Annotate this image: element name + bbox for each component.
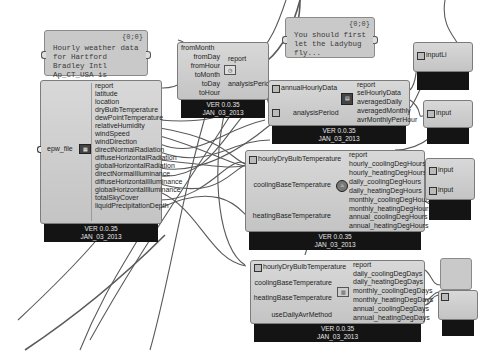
output-report: report xyxy=(228,55,246,62)
import-epw-component[interactable]: epw_file ▦ report latitude location dryB… xyxy=(40,80,162,242)
panel-text: You should first let the Ladybug fly... xyxy=(286,29,374,61)
output-analysis-period: analysisPeriod xyxy=(228,80,274,87)
input-label[interactable]: input xyxy=(438,166,453,173)
date-label: JAN_03_2013 xyxy=(272,135,406,143)
input-to-month[interactable]: toMonth xyxy=(195,71,220,78)
output-monthly-heating-days: monthly_heatingDegDays xyxy=(353,296,433,303)
version-label: VER 0.0.35 xyxy=(254,325,421,333)
component-version-footer xyxy=(442,320,474,336)
divider xyxy=(91,83,92,221)
ladybug-warning-panel[interactable]: {0;0} You should first let the Ladybug f… xyxy=(285,17,375,58)
output-report: report xyxy=(95,82,113,89)
component-version-footer xyxy=(417,72,469,90)
version-label: VER 0.0.35 xyxy=(44,225,158,233)
input-port[interactable] xyxy=(37,146,41,153)
panel-input-grip[interactable] xyxy=(282,36,287,44)
thermometer-icon: ♨ xyxy=(336,180,348,192)
output-liquid-precipitation: liquidPrecipitationDepth xyxy=(95,202,169,209)
degree-hours-component[interactable]: hourlyDryBulbTemperature coolingBaseTemp… xyxy=(245,150,425,250)
date-label: JAN_03_2013 xyxy=(181,109,265,117)
component-version-footer xyxy=(427,128,469,144)
output-report: report xyxy=(353,261,371,268)
epw-import-icon: ▦ xyxy=(79,144,91,154)
input-to-hour[interactable]: toHour xyxy=(199,89,220,96)
output-dew-point: dewPointTemperature xyxy=(95,114,163,121)
input-label[interactable]: inputLi xyxy=(426,51,447,58)
average-data-component[interactable]: annualHourlyData analysisPeriod ▤ report… xyxy=(268,80,410,144)
input-cooling-base-temp[interactable]: coolingBaseTemperature xyxy=(255,279,332,286)
input-label[interactable]: input xyxy=(436,109,451,116)
output-direct-normal-illuminance: directNormalIlluminance xyxy=(95,170,170,177)
input-heating-base-temp[interactable]: heatingBaseTemperature xyxy=(254,294,332,301)
input-label-epw-file: epw_file xyxy=(47,145,73,152)
output-hourly-heating: hourly_heatingDegHours xyxy=(349,169,426,176)
input-to-day[interactable]: toDay xyxy=(202,80,220,87)
clipped-input-component-3[interactable]: input input xyxy=(425,158,475,220)
output-averaged-daily: averagedDaily xyxy=(357,98,402,105)
output-monthly-heating: monthly_heatingDegHours xyxy=(349,205,432,212)
panel-input-grip[interactable] xyxy=(41,51,46,59)
output-total-sky-cover: totalSkyCover xyxy=(95,194,139,201)
output-relative-humidity: relativeHumidity xyxy=(95,122,145,129)
output-annual-cooling-days: annual_coolingDegDays xyxy=(353,305,429,312)
panel-output-grip[interactable] xyxy=(373,36,378,44)
input-analysis-period[interactable]: analysisPeriod xyxy=(293,109,339,116)
input-hourly-dry-bulb[interactable]: hourlyDryBulbTemperature xyxy=(263,263,346,270)
output-averaged-monthly: averagedMonthly xyxy=(357,107,411,114)
component-version-footer: VER 0.0.35 JAN_03_2013 xyxy=(272,126,406,144)
input-annual-hourly-data[interactable]: annualHourlyData xyxy=(281,84,337,91)
component-version-footer: VER 0.0.35 JAN_03_2013 xyxy=(254,324,421,342)
panel-output-grip[interactable] xyxy=(146,51,151,59)
list-param-icon xyxy=(429,187,437,195)
clipped-panel-right[interactable] xyxy=(440,258,472,290)
date-label: JAN_03_2013 xyxy=(44,233,158,241)
input-label[interactable]: input xyxy=(438,186,453,193)
date-label: JAN_03_2013 xyxy=(254,333,421,341)
output-report: report xyxy=(349,151,367,158)
list-param-icon xyxy=(272,109,280,117)
component-version-footer: VER 0.0.35 JAN_03_2013 xyxy=(181,100,265,118)
degree-days-icon: ▥ xyxy=(337,287,349,297)
output-daily-cooling: daily_coolingDegHours xyxy=(349,178,421,185)
input-heating-base-temp[interactable]: heatingBaseTemperature xyxy=(253,212,331,219)
degree-days-component[interactable]: hourlyDryBulbTemperature coolingBaseTemp… xyxy=(250,260,425,342)
list-param-icon xyxy=(429,167,437,175)
input-hourly-dry-bulb[interactable]: hourlyDryBulbTemperature xyxy=(258,155,341,162)
output-wind-speed: windSpeed xyxy=(95,130,130,137)
list-param-icon xyxy=(254,264,262,272)
component-version-footer xyxy=(429,200,471,220)
input-use-daily-avr-method[interactable]: useDailyAvrMethod xyxy=(271,311,332,318)
input-from-hour[interactable]: fromHour xyxy=(191,62,220,69)
clipped-input-component-2[interactable]: input xyxy=(423,100,473,144)
version-label: VER 0.0.35 xyxy=(249,233,421,241)
output-sel-hourly-data: selHourlyData xyxy=(357,89,401,96)
date-label: JAN_03_2013 xyxy=(249,241,421,249)
output-monthly-cooling-days: monthly_coolingDegDays xyxy=(353,287,432,294)
output-avr-monthly-per-hour: avrMonthlyPerHour xyxy=(357,116,417,123)
output-annual-heating-days: annual_heatingDegDays xyxy=(353,314,430,321)
input-cooling-base-temp[interactable]: coolingBaseTemperature xyxy=(254,181,331,188)
list-param-icon xyxy=(417,52,425,60)
clipped-input-component-4[interactable] xyxy=(438,290,478,336)
output-direct-normal-radiation: directNormalRadiation xyxy=(95,146,164,153)
output-monthly-cooling: monthly_coolingDegHours xyxy=(349,196,431,203)
input-from-day[interactable]: fromDay xyxy=(194,53,220,60)
output-wind-direction: windDirection xyxy=(95,138,137,145)
list-param-icon xyxy=(249,156,257,164)
analysis-period-component[interactable]: fromMonth fromDay fromHour toMonth toDay… xyxy=(177,42,269,118)
list-param-icon xyxy=(441,293,449,301)
input-from-month[interactable]: fromMonth xyxy=(181,44,214,51)
output-daily-cooling-days: daily_coolingDegDays xyxy=(353,270,422,277)
output-global-horizontal-illuminance: globalHorizontalIlluminance xyxy=(95,186,181,193)
output-report: report xyxy=(357,81,375,88)
clipped-input-component-1[interactable]: inputLi xyxy=(413,42,473,90)
output-dry-bulb: dryBulbTemperature xyxy=(95,106,158,113)
output-location: location xyxy=(95,98,119,105)
component-version-footer: VER 0.0.35 JAN_03_2013 xyxy=(44,224,158,242)
weather-import-panel[interactable]: {0;0} Hourly weather data for Hartford B… xyxy=(44,30,148,76)
output-diffuse-horizontal-radiation: diffuseHorizontalRadiation xyxy=(95,154,177,161)
output-global-horizontal-radiation: globalHorizontalRadiation xyxy=(95,162,175,169)
output-diffuse-horizontal-illuminance: diffuseHorizontalIlluminance xyxy=(95,178,182,185)
output-daily-heating-days: daily_heatingDegDays xyxy=(353,278,423,285)
output-annual-heating: annual_heatingDegHours xyxy=(349,222,428,229)
